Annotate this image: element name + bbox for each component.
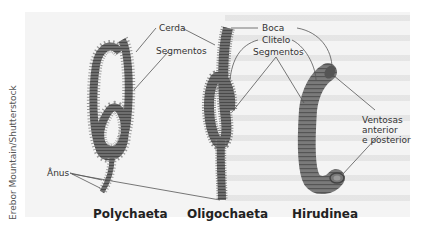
label-ventosas-line3: e posterior xyxy=(362,135,411,145)
label-segmentos-oligochaeta: Segmentos xyxy=(253,47,304,57)
hirudinea-worm-icon xyxy=(307,63,344,185)
label-anus: Ânus xyxy=(47,168,69,178)
label-clitelo: Clitelo xyxy=(262,35,290,45)
title-polychaeta: Polychaeta xyxy=(93,207,168,221)
oligochaeta-worm-icon xyxy=(209,28,230,200)
polychaeta-worm-icon xyxy=(93,40,128,192)
image-credit: Erebor Mountain/Shutterstock xyxy=(8,90,18,220)
title-oligochaeta: Oligochaeta xyxy=(187,207,268,221)
title-hirudinea: Hirudinea xyxy=(292,207,358,221)
label-boca: Boca xyxy=(262,23,284,33)
label-ventosas-line2: anterior xyxy=(362,125,398,135)
label-cerda: Cerda xyxy=(159,23,186,33)
label-ventosas-line1: Ventosas xyxy=(362,115,403,125)
label-segmentos-polychaeta: Segmentos xyxy=(156,46,207,56)
